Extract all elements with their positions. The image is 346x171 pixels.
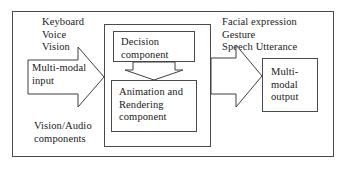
multimodal-output-box: Multi- modal output [262,58,318,112]
input-modalities-label: Keyboard Voice Vision [42,16,84,54]
decision-component-label: Decision component [121,36,169,61]
vision-audio-components-label: Vision/Audio components [34,120,92,145]
decision-component-box: Decision component [113,31,195,62]
diagram-canvas: Keyboard Voice Vision Facial expression … [0,0,346,171]
output-modalities-label: Facial expression Gesture Speech Utteran… [222,16,297,54]
animation-rendering-component-label: Animation and Rendering component [119,86,183,124]
multimodal-input-arrow-label: Multi-modal input [32,62,86,87]
multimodal-output-label: Multi- modal output [271,66,298,104]
animation-rendering-component-box: Animation and Rendering component [111,80,197,132]
